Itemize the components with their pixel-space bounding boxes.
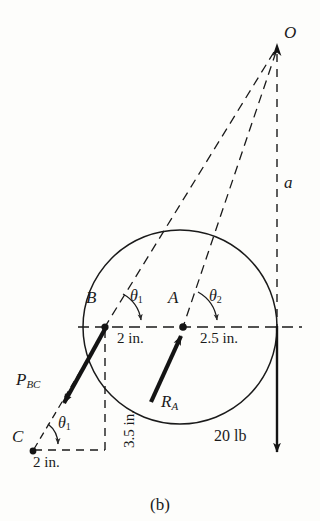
force-label-PBC: PBC: [16, 371, 40, 390]
figure-container: O A B C θ1 θ2 θ1 2 in. 2.5 in. 3.5 in. 2…: [0, 0, 320, 521]
point-label-A: A: [168, 289, 178, 306]
point-marker-B: [101, 323, 108, 330]
theta1-top-glyph: θ: [130, 287, 138, 304]
angle-arc-theta1-bottom: [48, 424, 58, 444]
angle-label-theta1-top: θ1: [130, 288, 143, 305]
dimension-label-3p5in: 3.5 in.: [122, 410, 137, 448]
distance-label-a: a: [284, 174, 293, 191]
point-label-O: O: [284, 24, 296, 41]
theta1-top-subscript: 1: [138, 294, 143, 305]
RA-subscript: A: [171, 400, 178, 412]
PBC-symbol: P: [16, 370, 26, 389]
force-label-RA: RA: [161, 393, 178, 412]
theta1-bottom-subscript: 1: [66, 421, 71, 432]
RA-symbol: R: [161, 392, 171, 411]
point-label-C: C: [12, 428, 23, 445]
point-label-B: B: [86, 289, 96, 306]
theta2-top-glyph: θ: [209, 287, 217, 304]
theta2-top-subscript: 2: [217, 294, 222, 305]
theta1-bottom-glyph: θ: [58, 414, 66, 431]
dimension-label-2p5in: 2.5 in.: [200, 331, 238, 346]
ray-O-to-A: [182, 52, 276, 330]
ray-O-to-B: [103, 52, 274, 330]
dimension-label-2in-bottom: 2 in.: [33, 455, 60, 470]
point-marker-A: [179, 323, 187, 331]
angle-label-theta1-bottom: θ1: [58, 415, 71, 432]
figure-caption: (b): [0, 496, 320, 513]
PBC-subscript: BC: [26, 378, 40, 390]
angle-label-theta2-top: θ2: [209, 288, 222, 305]
force-label-weight-20lb: 20 lb: [214, 428, 246, 444]
mechanics-diagram: [0, 0, 320, 521]
dimension-label-2in-AB: 2 in.: [117, 331, 144, 346]
